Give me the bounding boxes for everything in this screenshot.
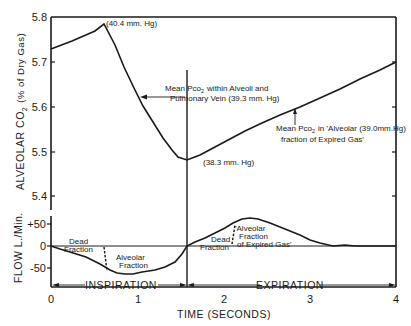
- expired-gas-annotation: Mean Pco2in 'Alveolar (39.0mm.Hg): [276, 124, 406, 134]
- upper-y-tick-label: 5.6: [32, 101, 47, 113]
- lower-y-tick-label: -50: [30, 262, 46, 274]
- alveolar-fraction-inspiration-label: Fraction: [119, 261, 148, 270]
- lower-panel: +50 0 -50 FLOW L./Min. Dead Fraction Alv…: [12, 212, 396, 291]
- upper-y-axis-label: ALVEOLAR CO2(% of Dry Gas): [14, 33, 28, 190]
- upper-y-tick-label: 5.7: [32, 56, 47, 68]
- dead-fraction-expiration-label: Fraction: [200, 243, 229, 252]
- dead-fraction-inspiration-label: Fraction: [64, 245, 93, 254]
- mean-alveoli-annotation-line2: Pulmonary Vein (39.3 mm. Hg): [170, 94, 280, 103]
- inspiration-label: INSPIRATION: [85, 279, 157, 291]
- x-tick-label: 4: [393, 293, 399, 305]
- mean-alveoli-annotation: Mean Pco2within Alveoli and: [165, 84, 268, 94]
- trough-annotation: (38.3 mm. Hg): [203, 158, 254, 167]
- x-axis-label: TIME (SECONDS): [177, 308, 271, 320]
- lower-y-tick-label: 0: [40, 240, 46, 252]
- expiration-label: EXPIRATION: [256, 279, 324, 291]
- peak-annotation: (40.4 mm. Hg): [106, 19, 157, 28]
- svg-text:FLOW L./Min.: FLOW L./Min.: [12, 212, 24, 283]
- x-tick-label: 0: [48, 293, 54, 305]
- expired-gas-annotation-line2: fraction of Expired Gas': [281, 135, 364, 144]
- svg-text:ALVEOLAR CO2(% of Dry Gas): ALVEOLAR CO2(% of Dry Gas): [14, 33, 28, 190]
- x-tick-label: 3: [307, 293, 313, 305]
- upper-y-tick-label: 5.4: [32, 190, 47, 202]
- x-tick-label: 2: [221, 293, 227, 305]
- alveolar-fraction-expiration-label: of Expired Gas': [237, 240, 292, 249]
- x-tick-label: 1: [135, 293, 141, 305]
- x-axis: 0 1 2 3 4 TIME (SECONDS): [48, 293, 399, 320]
- lower-y-tick-label: +50: [27, 218, 46, 230]
- arrow-left-icon: [140, 95, 147, 100]
- upper-y-tick-label: 5.8: [32, 11, 47, 23]
- lower-y-axis-label: FLOW L./Min.: [12, 212, 24, 283]
- alveolar-co2-flow-chart: 5.8 5.7 5.6 5.5 5.4 ALVEOLAR CO2(% of Dr…: [0, 0, 411, 326]
- upper-y-tick-label: 5.5: [32, 146, 47, 158]
